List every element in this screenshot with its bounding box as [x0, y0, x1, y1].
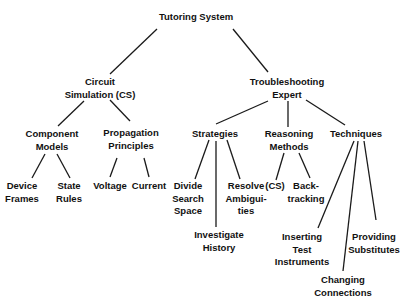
node-label: Techniques: [330, 128, 382, 141]
node-label: Resolve: [225, 180, 266, 193]
node-resolve-ambiguities: Resolve Ambigui- ties: [225, 180, 266, 218]
edge-root-troubleshooting-expert: [233, 29, 268, 72]
edge-pp-current: [144, 158, 149, 177]
node-label: Back-: [288, 180, 325, 193]
node-label: History: [194, 242, 244, 255]
node-current: Current: [132, 180, 166, 193]
node-label: Search: [172, 193, 204, 206]
node-label: Expert: [250, 89, 324, 102]
node-label: tracking: [288, 193, 325, 206]
node-voltage: Voltage: [93, 180, 127, 193]
edge-te-techniques: [306, 100, 345, 125]
node-label: State: [56, 180, 82, 193]
node-label: Simulation (CS): [65, 89, 136, 102]
edge-cm-state-rules: [57, 154, 70, 178]
node-inserting-test-instruments: Inserting Test Instruments: [275, 231, 329, 269]
node-label: Divide: [172, 180, 204, 193]
edge-cm-device-frames: [32, 154, 45, 178]
node-label: Rules: [56, 193, 82, 206]
node-changing-connections: Changing Connections: [314, 274, 372, 299]
node-label: Strategies: [192, 128, 238, 141]
edge-st-divide: [195, 140, 209, 179]
node-label: ties: [225, 205, 266, 218]
edge-cs-propagation-principles: [110, 100, 130, 121]
node-label: Component: [26, 128, 79, 141]
node-label: Tutoring System: [159, 11, 233, 24]
node-troubleshooting-expert: Troubleshooting Expert: [250, 76, 324, 101]
edge-te-strategies: [216, 101, 268, 124]
edge-tq-providing: [364, 141, 376, 220]
node-label: Instruments: [275, 256, 329, 269]
node-label: Propagation: [103, 127, 158, 140]
node-label: Current: [132, 180, 166, 193]
edge-cs-component-models: [58, 101, 84, 126]
node-label: (CS): [265, 180, 285, 193]
tree-diagram: Tutoring System Circuit Simulation (CS) …: [0, 0, 409, 308]
edge-st-resolve: [227, 140, 240, 179]
node-label: Test: [275, 244, 329, 257]
tree-edges: [0, 0, 409, 308]
node-reasoning-methods: Reasoning Methods: [265, 128, 314, 153]
node-label: Methods: [265, 141, 314, 154]
node-label: Providing: [348, 231, 400, 244]
node-label: Principles: [103, 140, 158, 153]
node-device-frames: Device Frames: [5, 180, 39, 205]
node-label: Troubleshooting: [250, 76, 324, 89]
node-label: Circuit: [65, 76, 136, 89]
node-label: Voltage: [93, 180, 127, 193]
node-label: Frames: [5, 193, 39, 206]
node-label: Inserting: [275, 231, 329, 244]
node-label: Investigate: [194, 229, 244, 242]
edge-rm-backtracking: [299, 153, 310, 178]
node-providing-substitutes: Providing Substitutes: [348, 231, 400, 256]
edge-root-circuit-simulation: [110, 29, 157, 74]
edge-rm-cs: [276, 153, 284, 180]
node-tutoring-system: Tutoring System: [159, 11, 233, 24]
edge-pp-voltage: [110, 158, 117, 177]
node-strategies: Strategies: [192, 128, 238, 141]
node-propagation-principles: Propagation Principles: [103, 127, 158, 152]
node-label: Device: [5, 180, 39, 193]
node-label: Connections: [314, 287, 372, 300]
node-label: Ambigui-: [225, 193, 266, 206]
node-label: Reasoning: [265, 128, 314, 141]
node-component-models: Component Models: [26, 128, 79, 153]
node-label: Models: [26, 141, 79, 154]
node-reasoning-cs: (CS): [265, 180, 285, 193]
node-label: Space: [172, 205, 204, 218]
node-label: Substitutes: [348, 244, 400, 257]
node-label: Changing: [314, 274, 372, 287]
node-circuit-simulation: Circuit Simulation (CS): [65, 76, 136, 101]
node-backtracking: Back- tracking: [288, 180, 325, 205]
node-state-rules: State Rules: [56, 180, 82, 205]
node-investigate-history: Investigate History: [194, 229, 244, 254]
node-techniques: Techniques: [330, 128, 382, 141]
node-divide-search-space: Divide Search Space: [172, 180, 204, 218]
